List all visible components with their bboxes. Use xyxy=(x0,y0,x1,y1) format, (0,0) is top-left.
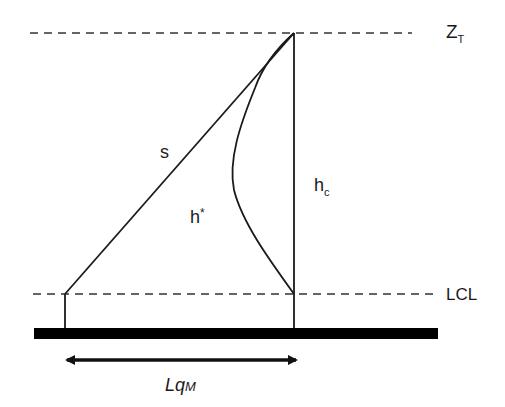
label-lqm: LqM xyxy=(165,376,196,394)
ground-bar xyxy=(34,328,438,339)
diagram-canvas xyxy=(0,0,505,407)
label-s-text: s xyxy=(160,142,169,162)
curve-h-star xyxy=(232,33,294,294)
label-lcl: LCL xyxy=(446,286,477,303)
label-hc-main: h xyxy=(314,175,324,195)
label-h-star: h* xyxy=(190,208,205,226)
label-lqm-m: M xyxy=(185,379,196,394)
label-zt-main: Z xyxy=(446,21,458,42)
slant-line-s xyxy=(65,33,294,294)
label-zt-sub: T xyxy=(458,33,465,45)
label-h-star-sup: * xyxy=(200,206,205,220)
label-zt: ZT xyxy=(446,22,464,41)
label-lqm-main: Lq xyxy=(165,375,185,395)
label-h-star-main: h xyxy=(190,207,200,227)
label-lcl-text: LCL xyxy=(446,285,477,304)
label-s: s xyxy=(160,143,169,161)
label-hc: hc xyxy=(314,176,330,194)
label-hc-sub: c xyxy=(324,186,330,198)
